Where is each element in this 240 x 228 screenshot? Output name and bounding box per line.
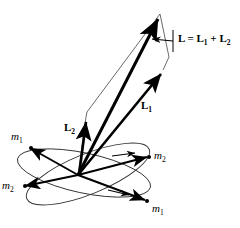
label-vector-L1: L1 [141, 100, 152, 114]
construction-line-right-upper [160, 14, 169, 57]
momentum-vectors [78, 19, 161, 175]
mass-marker-lower-left [23, 184, 27, 188]
leader-arrow-line [152, 39, 173, 41]
label-resultant-plus: + [208, 32, 220, 44]
label-resultant-L2-base: L [219, 32, 226, 44]
orbit-direction-arrow-upper [112, 153, 135, 156]
vector-L-resultant [78, 19, 158, 175]
construction-line-right-lower [163, 57, 169, 70]
angular-momentum-diagram: L = L1 + L2 L1 L2 m1 m2 m2 m1 [0, 0, 240, 228]
label-resultant-L: L [178, 32, 185, 44]
label-mass-bottom-sub: 1 [160, 208, 164, 217]
label-mass-bottom-base: m [152, 202, 160, 214]
radius-vectors [25, 148, 147, 200]
radius-vector-mass-upper-left [30, 148, 78, 175]
label-mass-upper-left: m1 [11, 131, 23, 145]
vector-L1 [78, 74, 161, 175]
orbit-ellipse-1 [19, 131, 156, 218]
label-mass-bottom: m1 [152, 203, 164, 217]
label-L1-sub: 1 [148, 105, 152, 114]
mass-marker-bottom [145, 199, 149, 203]
label-L2-sub: 2 [71, 127, 75, 136]
label-resultant: L = L1 + L2 [178, 33, 230, 47]
label-mass-lower-left: m2 [2, 180, 14, 194]
label-resultant-equals: = [185, 32, 197, 44]
mass-marker-right [147, 155, 151, 159]
orbit-path-1 [19, 131, 156, 218]
label-vector-L2: L2 [64, 122, 75, 136]
label-mass-right: m2 [154, 150, 166, 164]
label-mass-right-base: m [154, 149, 162, 161]
mass-marker-upper-left [29, 146, 33, 150]
label-mass-lower-left-base: m [2, 179, 10, 191]
resultant-leader [152, 30, 173, 52]
label-mass-right-sub: 2 [162, 155, 166, 164]
label-mass-upper-left-sub: 1 [19, 136, 23, 145]
label-mass-upper-left-base: m [11, 130, 19, 142]
label-mass-lower-left-sub: 2 [10, 185, 14, 194]
label-resultant-L2-sub: 2 [227, 38, 231, 47]
radius-vector-mass-bottom [78, 175, 145, 200]
label-resultant-L1-base: L [197, 32, 204, 44]
